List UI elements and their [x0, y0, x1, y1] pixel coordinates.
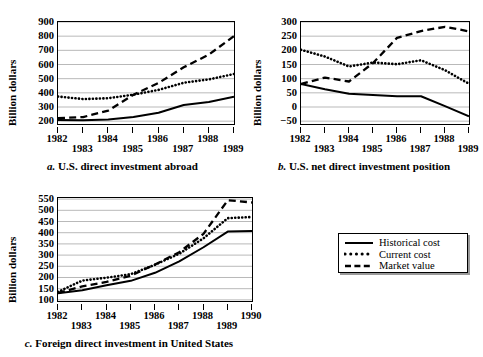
y-tick-label: 300: [38, 249, 54, 260]
x-tick-label: 1988: [192, 310, 213, 321]
dotted-line-icon: [344, 249, 374, 259]
y-tick-label: 150: [38, 282, 54, 293]
plot-area-b: [300, 21, 470, 125]
y-tick-label: 250: [38, 260, 54, 271]
x-tick-label: 1989: [458, 143, 479, 154]
x-tick-label: 1985: [122, 143, 143, 154]
x-tick-label: 1985: [362, 143, 383, 154]
x-tick-label: 1988: [434, 133, 455, 144]
x-tick-label: 1986: [147, 133, 168, 144]
x-tick-label: 1983: [314, 143, 335, 154]
y-tick-label: 500: [38, 204, 54, 215]
y-tick-label: 800: [38, 30, 54, 41]
y-tick-label: 0: [292, 101, 297, 112]
x-tick-label: 1983: [71, 320, 92, 331]
y-tick-label: 200: [38, 271, 54, 282]
legend-item: Historical cost: [344, 237, 463, 249]
y-tick-label: 450: [38, 215, 54, 226]
y-axis-ticks-b: −50050100150200250300: [265, 21, 297, 125]
x-tick-label: 1985: [119, 320, 140, 331]
x-axis-ticks-c: 198219831984198519861987198819891990: [57, 304, 253, 330]
chart-panel-b: Billion dollars −50050100150200250300 19…: [245, 0, 483, 180]
x-tick-mark: [130, 304, 131, 310]
x-tick-label: 1984: [95, 310, 116, 321]
x-tick-label: 1984: [338, 133, 359, 144]
x-tick-label: 1990: [241, 310, 262, 321]
x-tick-mark: [183, 127, 184, 133]
legend-item: Current cost: [344, 249, 463, 261]
x-tick-mark: [233, 127, 234, 133]
x-axis-ticks-b: 19821983198419851986198719881989: [300, 127, 470, 153]
y-tick-label: 700: [38, 44, 54, 55]
y-tick-label: 400: [38, 86, 54, 97]
y-tick-label: −50: [281, 115, 297, 126]
x-tick-mark: [81, 304, 82, 310]
y-tick-label: 100: [281, 72, 297, 83]
caption-a: a. U.S. direct investment abroad: [0, 160, 245, 172]
x-axis-ticks-a: 19821983198419851986198719881989: [57, 127, 235, 153]
caption-text-c: Foreign direct investment in United Stat…: [35, 337, 233, 349]
x-tick-mark: [227, 304, 228, 310]
x-tick-mark: [372, 127, 373, 133]
series-line: [58, 231, 252, 293]
x-tick-mark: [324, 127, 325, 133]
caption-c: c. Foreign direct investment in United S…: [0, 337, 258, 349]
x-tick-label: 1983: [72, 143, 93, 154]
y-axis-label-b: Billion dollars: [251, 22, 263, 126]
series-line: [58, 217, 252, 292]
x-tick-label: 1987: [168, 320, 189, 331]
caption-label-a: a.: [47, 160, 55, 172]
series-line: [58, 74, 234, 99]
plot-area-a: [57, 21, 235, 125]
x-tick-label: 1982: [47, 310, 68, 321]
y-tick-label: 400: [38, 226, 54, 237]
y-tick-label: 200: [38, 115, 54, 126]
y-tick-label: 250: [281, 30, 297, 41]
y-tick-label: 550: [38, 193, 54, 204]
y-tick-label: 500: [38, 72, 54, 83]
x-tick-label: 1982: [47, 133, 68, 144]
x-tick-mark: [132, 127, 133, 133]
caption-label-b: b.: [278, 160, 286, 172]
x-tick-mark: [178, 304, 179, 310]
y-tick-label: 100: [38, 293, 54, 304]
x-tick-label: 1986: [144, 310, 165, 321]
x-tick-mark: [82, 127, 83, 133]
y-axis-ticks-a: 200300400500600700800900: [22, 21, 54, 125]
x-tick-label: 1989: [223, 143, 244, 154]
y-tick-label: 350: [38, 237, 54, 248]
x-tick-label: 1986: [386, 133, 407, 144]
x-tick-label: 1984: [97, 133, 118, 144]
x-tick-label: 1987: [172, 143, 193, 154]
x-tick-mark: [468, 127, 469, 133]
series-line: [301, 84, 469, 116]
y-tick-label: 900: [38, 16, 54, 27]
caption-b: b. U.S. net direct investment position: [245, 160, 483, 172]
y-axis-label-c: Billion dollars: [6, 198, 18, 303]
y-tick-label: 200: [281, 44, 297, 55]
x-tick-label: 1987: [410, 143, 431, 154]
plot-area-c: [57, 197, 253, 302]
y-tick-label: 50: [287, 86, 298, 97]
chart-panel-a: Billion dollars 200300400500600700800900…: [0, 0, 245, 180]
y-tick-label: 150: [281, 58, 297, 69]
legend-label: Current cost: [379, 249, 431, 260]
y-tick-label: 300: [38, 101, 54, 112]
y-tick-label: 600: [38, 58, 54, 69]
y-axis-label-a: Billion dollars: [6, 22, 18, 126]
dashed-line-icon: [344, 261, 374, 271]
series-line: [301, 27, 469, 84]
caption-text-b: U.S. net direct investment position: [289, 160, 450, 172]
solid-line-icon: [344, 238, 374, 248]
y-axis-ticks-c: 100150200250300350400450500550: [22, 197, 54, 302]
legend-item: Market value: [344, 260, 463, 272]
x-tick-label: 1989: [216, 320, 237, 331]
series-line: [58, 36, 234, 118]
chart-legend: Historical costCurrent costMarket value: [338, 233, 468, 273]
x-tick-label: 1982: [290, 133, 311, 144]
x-tick-mark: [420, 127, 421, 133]
caption-text-a: U.S. direct investment abroad: [58, 160, 198, 172]
legend-label: Historical cost: [379, 237, 440, 248]
x-tick-label: 1988: [197, 133, 218, 144]
y-tick-label: 300: [281, 16, 297, 27]
